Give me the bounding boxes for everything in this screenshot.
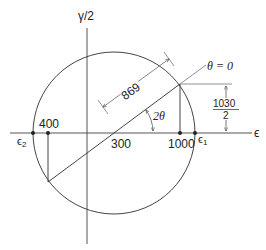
- gamma-axis-label: γ/2: [78, 9, 94, 23]
- epsilon-2-point: [31, 131, 35, 135]
- epsilon-1-label: ϵ1: [198, 133, 208, 147]
- epsilon-2-label: ϵ2: [17, 135, 27, 149]
- angle-label: 2θ: [153, 109, 165, 123]
- epsilon-axis-label: ϵ: [254, 126, 259, 140]
- label-300: 300: [111, 137, 131, 151]
- angle-arc: [146, 110, 153, 131]
- point-1000: [178, 131, 182, 135]
- epsilon-1-point: [193, 131, 197, 135]
- reference-line-extension: [180, 65, 206, 84]
- shear-numerator: 1030: [213, 98, 236, 109]
- reference-line-label: θ = 0: [207, 59, 233, 73]
- label-1000: 1000: [168, 137, 195, 151]
- point-400: [46, 131, 50, 135]
- shear-denominator: 2: [223, 110, 229, 121]
- label-400: 400: [39, 117, 59, 131]
- mohr-circle-diagram: γ/2 ϵ θ = 0 1030 2 869 2θ 400 300 1000 ϵ…: [0, 0, 266, 250]
